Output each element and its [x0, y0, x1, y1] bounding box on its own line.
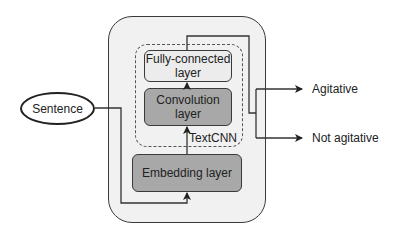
- convolution-layer-node: Convolution layer: [144, 88, 232, 126]
- textcnn-group-label: TextCNN: [189, 131, 237, 145]
- fully-connected-layer-node: Fully-connected layer: [144, 50, 232, 82]
- fully-connected-label-line2: layer: [146, 66, 231, 80]
- output-not-agitative-label: Not agitative: [312, 131, 379, 145]
- sentence-label: Sentence: [32, 102, 83, 116]
- fully-connected-label-line1: Fully-connected: [146, 52, 231, 66]
- embedding-layer-node: Embedding layer: [132, 154, 242, 192]
- convolution-layer-label: Convolution layer: [145, 93, 231, 121]
- sentence-input-node: Sentence: [20, 92, 95, 125]
- embedding-layer-label: Embedding layer: [142, 166, 232, 180]
- output-agitative-label: Agitative: [312, 82, 358, 96]
